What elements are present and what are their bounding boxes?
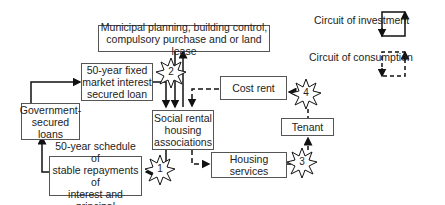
node-social-line2: housing xyxy=(154,124,212,136)
burst-2-label: 2 xyxy=(164,66,178,77)
node-social-line1: Social rental xyxy=(154,112,212,124)
arrow-social-to-housing xyxy=(192,150,209,164)
node-tenant: Tenant xyxy=(281,118,334,136)
node-housing-services: Housing services xyxy=(211,152,287,178)
node-municipal-line1: Municipal planning, building control, xyxy=(99,21,269,33)
legend-consumption-label: Circuit of consumption xyxy=(309,51,413,63)
node-gov-line1: Government- xyxy=(20,104,81,116)
node-gov-line2: secured xyxy=(20,116,81,128)
node-loan: 50-year fixed market interest secured lo… xyxy=(81,63,153,101)
burst-1-label: 1 xyxy=(153,163,167,174)
burst-4-label: 4 xyxy=(299,87,313,98)
node-social: Social rental housing associations xyxy=(152,110,214,150)
node-loan-line1: 50-year fixed xyxy=(82,64,151,76)
node-gov-line3: loans xyxy=(20,128,81,140)
node-loan-line2: market interest xyxy=(82,76,151,88)
node-schedule-line2: stable repayments of xyxy=(50,164,141,188)
node-cost-rent-label: Cost rent xyxy=(232,82,275,94)
node-tenant-label: Tenant xyxy=(292,121,324,133)
arrow-loan-to-social xyxy=(152,82,166,107)
node-gov: Government- secured loans xyxy=(21,103,80,140)
node-schedule-line3: interest and principal xyxy=(50,188,141,205)
node-housing-services-label: Housing services xyxy=(212,153,286,177)
arrow-costrent-to-social xyxy=(192,89,219,106)
node-schedule-line1: 50-year schedule of xyxy=(50,140,141,164)
node-loan-line3: secured loan xyxy=(82,88,151,100)
node-schedule: 50-year schedule of stable repayments of… xyxy=(49,156,142,196)
node-cost-rent: Cost rent xyxy=(220,76,287,100)
legend-investment-label: Circuit of investment xyxy=(314,14,409,26)
node-social-line3: associations xyxy=(154,136,212,148)
node-municipal-line2: compulsory purchase and or land lease xyxy=(99,33,269,57)
node-municipal: Municipal planning, building control, co… xyxy=(98,25,270,52)
burst-3-label: 3 xyxy=(295,156,309,167)
